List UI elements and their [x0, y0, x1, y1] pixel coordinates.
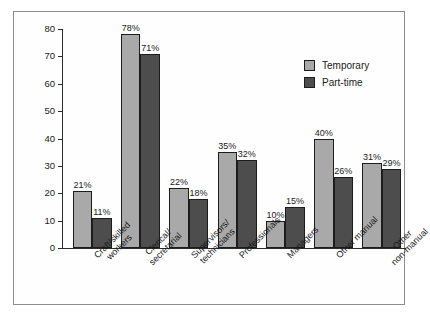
- legend-swatch-icon: [304, 77, 315, 88]
- y-tick-mark: [58, 248, 63, 249]
- bar-value-label: 15%: [286, 197, 304, 206]
- y-tick-mark: [58, 166, 63, 167]
- y-tick-mark: [58, 139, 63, 140]
- y-tick-label: 10: [44, 216, 55, 226]
- bar-value-label: 21%: [73, 181, 91, 190]
- y-tick-label: 50: [44, 106, 55, 116]
- bar-value-label: 22%: [170, 178, 188, 187]
- y-tick-label: 70: [44, 52, 55, 62]
- y-tick-mark: [58, 193, 63, 194]
- bar-value-label: 71%: [141, 44, 159, 53]
- bar-group: 78%71%: [121, 29, 160, 248]
- y-tick-label: 80: [44, 24, 55, 34]
- bar-value-label: 31%: [363, 153, 381, 162]
- bar-group: 35%32%: [218, 29, 257, 248]
- y-tick-label: 30: [44, 161, 55, 171]
- y-tick-mark: [58, 111, 63, 112]
- legend-item-temp[interactable]: Temporary: [304, 60, 369, 71]
- bar-temporary[interactable]: 21%: [73, 191, 93, 248]
- bar-value-label: 29%: [383, 159, 401, 168]
- bar-group: 10%15%: [266, 29, 305, 248]
- bar-value-label: 40%: [315, 129, 333, 138]
- legend-swatch-icon: [304, 60, 315, 71]
- bar-group: 22%18%: [169, 29, 208, 248]
- y-tick-mark: [58, 221, 63, 222]
- bar-value-label: 26%: [334, 167, 352, 176]
- y-tick-mark: [58, 29, 63, 30]
- bar-value-label: 32%: [238, 150, 256, 159]
- bar-value-label: 18%: [189, 189, 207, 198]
- bar-value-label: 35%: [218, 142, 236, 151]
- y-tick-label: 20: [44, 189, 55, 199]
- y-tick-label: 60: [44, 79, 55, 89]
- legend-label: Part-time: [322, 78, 363, 88]
- y-tick-mark: [58, 84, 63, 85]
- bar-temporary[interactable]: 78%: [121, 34, 141, 248]
- bar-part-time[interactable]: 71%: [140, 54, 160, 248]
- bar-value-label: 78%: [122, 24, 140, 33]
- chart-legend: TemporaryPart-time: [304, 60, 369, 94]
- y-tick-mark: [58, 56, 63, 57]
- bar-group: 21%11%: [73, 29, 112, 248]
- legend-item-part[interactable]: Part-time: [304, 77, 369, 88]
- y-tick-label: 0: [50, 243, 55, 253]
- bar-value-label: 11%: [93, 208, 110, 217]
- chart-frame: 01020304050607080 21%11%78%71%22%18%35%3…: [13, 11, 405, 305]
- legend-label: Temporary: [322, 61, 369, 71]
- y-tick-label: 40: [44, 134, 55, 144]
